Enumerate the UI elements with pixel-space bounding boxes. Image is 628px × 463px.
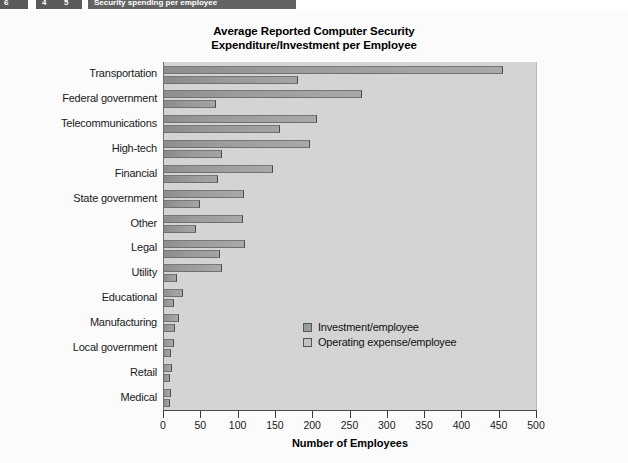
x-axis-tick <box>461 411 462 418</box>
x-axis-tick <box>350 411 351 418</box>
x-axis-tick <box>200 411 201 418</box>
x-axis-tick-label: 150 <box>255 419 295 431</box>
x-axis-tick <box>275 411 276 418</box>
chart-title-line-1: Average Reported Computer Security <box>0 24 628 38</box>
bar-investment <box>164 314 179 322</box>
category-label: Other <box>0 217 157 229</box>
category-label: High-tech <box>0 142 157 154</box>
x-axis-tick-label: 0 <box>143 419 183 431</box>
bar-operating-expense <box>164 100 216 108</box>
bar-investment <box>164 140 310 148</box>
bar-investment <box>164 165 273 173</box>
legend-swatch-icon-operating-expense <box>303 338 312 347</box>
top-header-bar: 6 4 5 Security spending per employee <box>0 0 628 11</box>
x-axis-tick-label: 300 <box>367 419 407 431</box>
bar-investment <box>164 389 171 397</box>
x-axis-tick-label: 250 <box>330 419 370 431</box>
bar-operating-expense <box>164 175 218 183</box>
chart-title: Average Reported Computer Security Expen… <box>0 24 628 52</box>
x-axis-tick-label: 350 <box>404 419 444 431</box>
category-label: Financial <box>0 167 157 179</box>
chapter-number: 6 <box>4 0 8 9</box>
legend-swatch-icon-investment <box>303 323 312 332</box>
bar-operating-expense <box>164 299 174 307</box>
x-axis-tick-label: 200 <box>292 419 332 431</box>
bar-operating-expense <box>164 399 170 407</box>
x-axis-tick <box>499 411 500 418</box>
category-label: Federal government <box>0 92 157 104</box>
category-label: Legal <box>0 241 157 253</box>
plot-area <box>163 62 537 410</box>
x-axis-tick-label: 400 <box>441 419 481 431</box>
bar-operating-expense <box>164 274 177 282</box>
bar-operating-expense <box>164 76 298 84</box>
bar-investment <box>164 240 245 248</box>
nav-prev-number[interactable]: 4 <box>42 0 46 9</box>
category-axis-labels: TransportationFederal governmentTelecomm… <box>0 62 157 410</box>
bar-investment <box>164 289 183 297</box>
legend-label-investment: Investment/employee <box>318 321 419 333</box>
legend-item-operating-expense[interactable]: Operating expense/employee <box>303 335 457 349</box>
x-axis-tick-label: 50 <box>180 419 220 431</box>
x-axis-tick-label: 100 <box>218 419 258 431</box>
bar-investment <box>164 264 222 272</box>
category-label: Medical <box>0 391 157 403</box>
x-axis-tick <box>424 411 425 418</box>
x-axis-tick <box>163 411 164 418</box>
category-label: Transportation <box>0 67 157 79</box>
bar-investment <box>164 215 243 223</box>
bar-investment <box>164 190 244 198</box>
bar-operating-expense <box>164 150 222 158</box>
bar-operating-expense <box>164 374 170 382</box>
bar-operating-expense <box>164 225 196 233</box>
chart-legend: Investment/employee Operating expense/em… <box>303 320 457 350</box>
legend-item-investment[interactable]: Investment/employee <box>303 320 457 334</box>
category-label: Retail <box>0 366 157 378</box>
bar-operating-expense <box>164 349 171 357</box>
bar-investment <box>164 364 172 372</box>
nav-next-number[interactable]: 5 <box>64 0 68 9</box>
category-label: Local government <box>0 341 157 353</box>
bar-investment <box>164 90 362 98</box>
bar-operating-expense <box>164 200 200 208</box>
category-label: Educational <box>0 291 157 303</box>
x-axis-tick <box>387 411 388 418</box>
bar-investment <box>164 339 174 347</box>
chart-title-line-2: Expenditure/Investment per Employee <box>0 38 628 52</box>
x-axis-tick <box>312 411 313 418</box>
x-axis-tick <box>238 411 239 418</box>
category-label: State government <box>0 192 157 204</box>
bar-investment <box>164 66 503 74</box>
bar-operating-expense <box>164 125 280 133</box>
x-axis-title: Number of Employees <box>163 437 537 449</box>
x-axis-tick <box>536 411 537 418</box>
x-axis-tick-label: 500 <box>516 419 556 431</box>
bar-investment <box>164 115 317 123</box>
legend-label-operating-expense: Operating expense/employee <box>318 336 457 348</box>
category-label: Manufacturing <box>0 316 157 328</box>
category-label: Utility <box>0 266 157 278</box>
bar-operating-expense <box>164 324 175 332</box>
x-axis-tick-label: 450 <box>479 419 519 431</box>
bar-operating-expense <box>164 250 220 258</box>
header-title-strip: Security spending per employee <box>88 0 296 9</box>
category-label: Telecommunications <box>0 117 157 129</box>
